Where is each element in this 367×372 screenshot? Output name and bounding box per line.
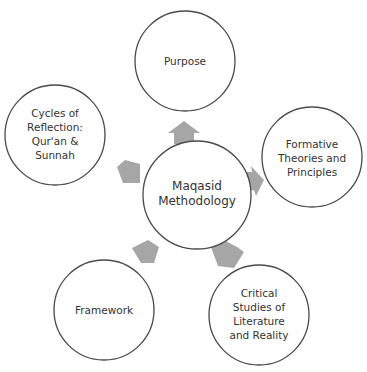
arrow-to-cycles-icon — [117, 160, 140, 183]
formative-label-line-3: Principles — [287, 166, 337, 178]
node-formative-theories: Formative Theories and Principles — [262, 107, 362, 207]
formative-label-line-1: Formative — [286, 138, 339, 150]
cycles-label-line-3: Qur'an & — [32, 135, 79, 147]
node-cycles-of-reflection: Cycles of Reflection: Qur'an & Sunnah — [5, 85, 105, 185]
cycles-label-line-4: Sunnah — [35, 149, 75, 161]
cycles-label-line-2: Reflection: — [27, 121, 83, 133]
formative-label-line-2: Theories and — [277, 152, 346, 164]
center-label-line-2: Methodology — [158, 194, 236, 208]
maqasid-methodology-diagram: Maqasid Methodology Purpose Formative Th… — [0, 0, 367, 372]
node-critical-studies: Critical Studies of Literature and Reali… — [209, 265, 309, 365]
purpose-label: Purpose — [164, 55, 206, 67]
center-node-maqasid-methodology: Maqasid Methodology — [143, 141, 251, 249]
critical-label-line-2: Studies of — [233, 301, 286, 313]
cycles-label-line-1: Cycles of — [31, 107, 79, 119]
critical-label-line-1: Critical — [241, 287, 278, 299]
center-label-line-1: Maqasid — [172, 179, 222, 193]
critical-label-line-3: Literature — [233, 315, 284, 327]
node-framework: Framework — [54, 260, 154, 360]
node-purpose: Purpose — [135, 11, 235, 111]
arrow-to-framework-icon — [132, 240, 159, 263]
framework-label: Framework — [75, 304, 134, 316]
critical-label-line-4: and Reality — [230, 329, 289, 341]
